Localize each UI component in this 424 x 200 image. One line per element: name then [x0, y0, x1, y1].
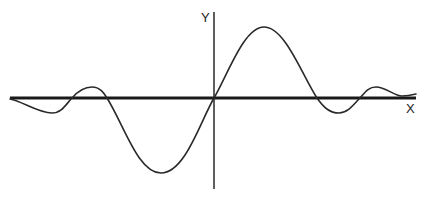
y-axis-label: Y [201, 11, 210, 24]
x-axis-label: X [406, 102, 415, 115]
wave-curve [10, 27, 416, 173]
function-plot [0, 0, 424, 200]
